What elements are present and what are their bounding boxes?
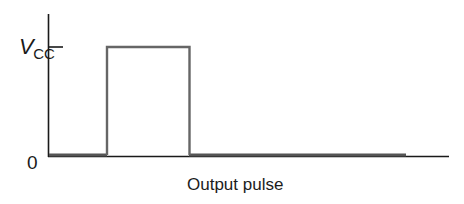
diagram-caption: Output pulse: [187, 176, 283, 193]
vcc-label: VCC: [19, 36, 55, 58]
pulse-waveform: [107, 47, 190, 155]
zero-label: 0: [27, 153, 38, 172]
pulse-diagram: [0, 0, 464, 204]
